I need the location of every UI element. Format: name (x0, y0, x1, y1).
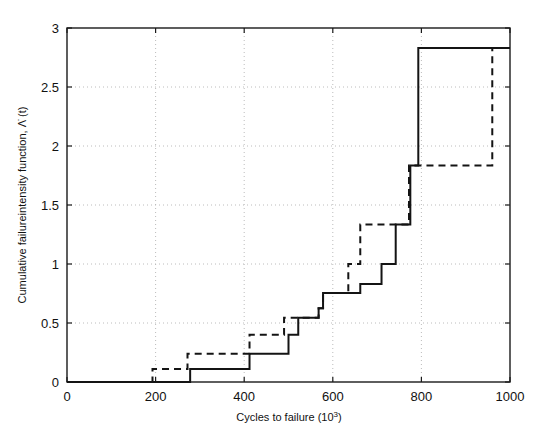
y-tick-label: 0.5 (41, 316, 59, 331)
y-tick-label: 1.5 (41, 198, 59, 213)
y-tick-label: 1 (52, 257, 59, 272)
chart-figure: 00.511.522.5302004006008001000 Cycles to… (0, 0, 548, 439)
x-tick-label: 0 (63, 389, 70, 404)
y-tick-label: 2.5 (41, 80, 59, 95)
y-tick-label: 2 (52, 139, 59, 154)
x-tick-label: 400 (233, 389, 255, 404)
y-axis-label: Cumulative failureintensity function, Λ̇… (16, 107, 28, 304)
x-axis-label: Cycles to failure (103) (236, 410, 341, 423)
figure-background (0, 0, 548, 439)
y-tick-label: 3 (52, 21, 59, 36)
x-tick-label: 800 (411, 389, 433, 404)
x-tick-label: 1000 (496, 389, 525, 404)
x-label-tail: ) (338, 411, 342, 423)
y-tick-label: 0 (52, 375, 59, 390)
x-tick-label: 600 (322, 389, 344, 404)
x-label-main: Cycles to failure (10 (236, 411, 333, 423)
x-tick-label: 200 (145, 389, 167, 404)
